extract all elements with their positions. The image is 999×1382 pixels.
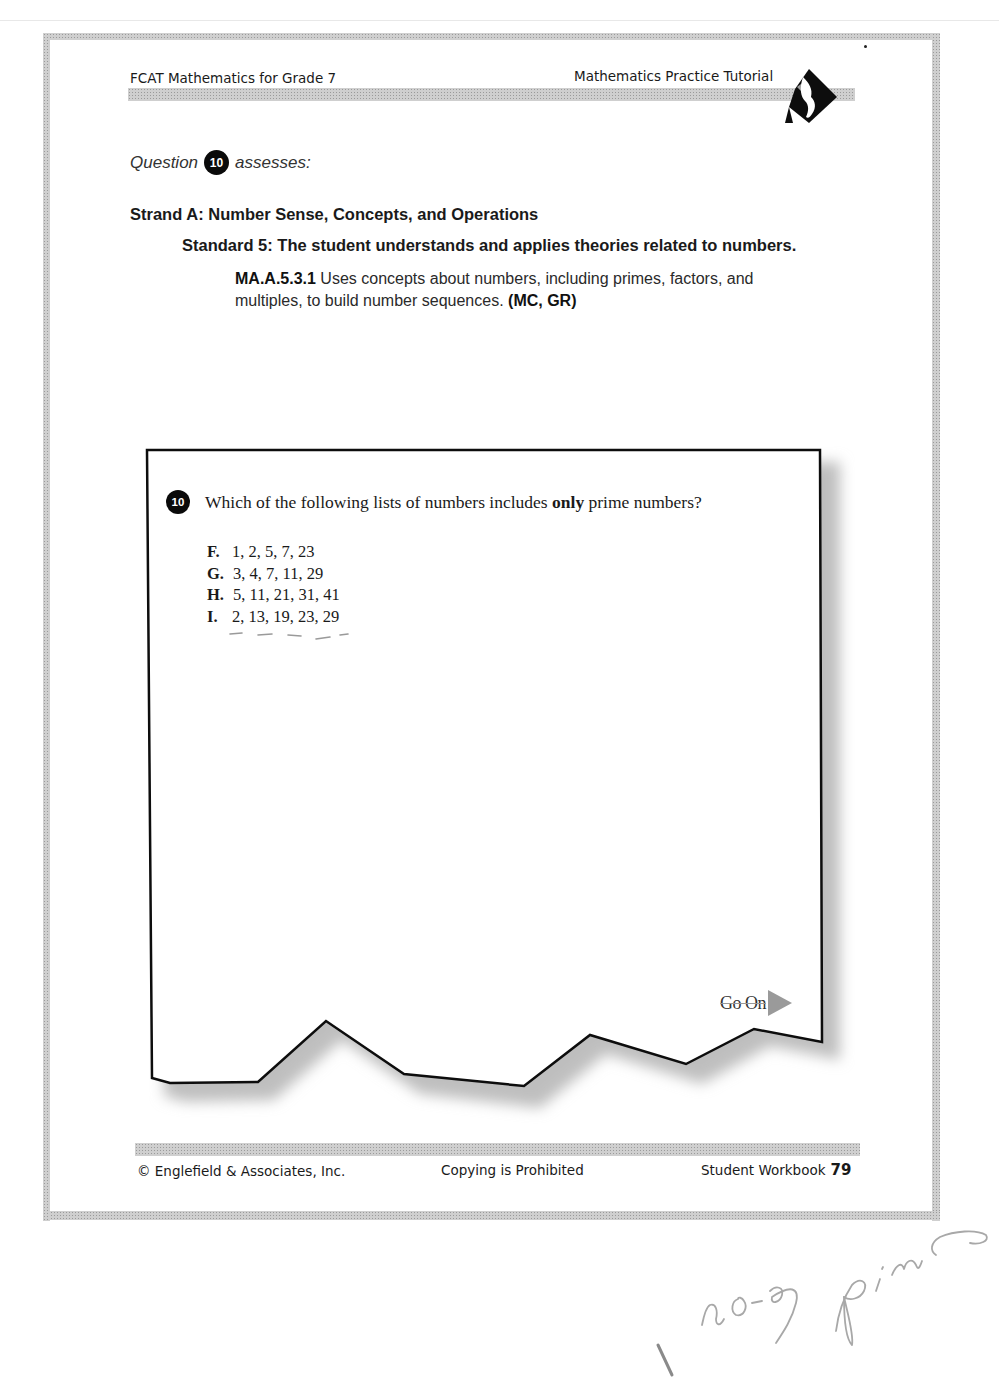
question-assesses-line: Question 10 assesses: [130,150,311,175]
option-value: 3, 4, 7, 11, 29 [233,563,323,585]
scan-speck [864,45,867,48]
option-letter: G. [207,563,233,585]
option-letter: F. [207,541,232,563]
benchmark-description: MA.A.5.3.1 Uses concepts about numbers, … [235,268,815,312]
option-letter: H. [207,584,233,606]
answer-option-h[interactable]: H. 5, 11, 21, 31, 41 [207,584,340,606]
answer-option-g[interactable]: G. 3, 4, 7, 11, 29 [207,563,340,585]
assesses-suffix: assesses: [235,153,311,173]
assesses-prefix: Question [130,153,198,173]
workbook-label: Student Workbook [701,1162,826,1178]
go-on-indicator: Go On [720,990,792,1016]
answer-options: F. 1, 2, 5, 7, 23 G. 3, 4, 7, 11, 29 H. … [207,541,340,627]
page-number: 79 [831,1161,852,1179]
option-value: 1, 2, 5, 7, 23 [232,541,315,563]
arrow-right-icon [768,990,792,1016]
standard-heading: Standard 5: The student understands and … [182,236,796,255]
book-title: FCAT Mathematics for Grade 7 [130,70,336,86]
handwritten-note: I no ej primo [640,1215,999,1382]
option-value: 5, 11, 21, 31, 41 [233,584,340,606]
benchmark-code: MA.A.5.3.1 [235,270,316,287]
copying-prohibited-notice: Copying is Prohibited [441,1162,584,1178]
page-border-right [932,33,940,1221]
scan-artifact-line [0,20,999,21]
workbook-page-label: Student Workbook79 [701,1161,851,1179]
footer-rule [135,1143,860,1156]
emphasis-only: only [552,492,584,512]
pencil-underline-marks [228,630,353,642]
header-rule [128,88,855,101]
answer-option-i[interactable]: I. 2, 13, 19, 23, 29 [207,606,340,628]
benchmark-types: (MC, GR) [508,292,576,309]
answer-option-f[interactable]: F. 1, 2, 5, 7, 23 [207,541,340,563]
page-border-top [43,33,937,40]
section-title: Mathematics Practice Tutorial [574,68,773,84]
option-value: 2, 13, 19, 23, 29 [232,606,339,628]
copyright-notice: © Englefield & Associates, Inc. [137,1163,345,1179]
question-stem: 10 Which of the following lists of numbe… [166,490,702,514]
page-border-left [43,33,50,1221]
question-number-badge: 10 [204,150,229,175]
strand-heading: Strand A: Number Sense, Concepts, and Op… [130,205,538,224]
florida-diamond-logo-icon [779,67,839,127]
question-number-badge: 10 [166,490,190,514]
go-on-label: Go On [720,993,766,1014]
question-text: Which of the following lists of numbers … [205,492,702,513]
option-letter: I. [207,606,232,628]
